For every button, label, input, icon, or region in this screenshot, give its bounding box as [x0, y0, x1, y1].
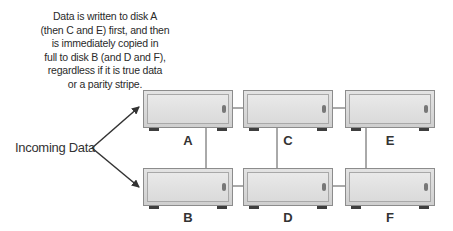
disk-c-label: C	[243, 133, 333, 148]
disk-f	[345, 168, 435, 206]
disk-face	[247, 94, 329, 124]
disk-face	[147, 94, 229, 124]
arrow-to-disk-a	[92, 107, 139, 148]
disk-led-icon	[424, 183, 428, 191]
disk-d	[243, 168, 333, 206]
disk-led-icon	[222, 183, 226, 191]
disk-led-icon	[322, 183, 326, 191]
disk-face	[147, 172, 229, 202]
disk-e-label: E	[345, 133, 435, 148]
disk-foot	[249, 206, 259, 209]
disk-foot	[419, 206, 429, 209]
disk-foot	[317, 206, 327, 209]
disk-c	[243, 90, 333, 128]
disk-foot	[217, 128, 227, 131]
disk-d-label: D	[243, 210, 333, 225]
disk-foot	[217, 206, 227, 209]
disk-b	[143, 168, 233, 206]
disk-b-label: B	[143, 210, 233, 225]
disk-a-label: A	[143, 133, 233, 148]
disk-foot	[149, 128, 159, 131]
arrow-to-disk-b	[92, 148, 139, 187]
disk-face	[247, 172, 329, 202]
disk-foot	[317, 128, 327, 131]
disk-foot	[351, 128, 361, 131]
disk-a	[143, 90, 233, 128]
disk-e	[345, 90, 435, 128]
disk-foot	[249, 128, 259, 131]
disk-foot	[351, 206, 361, 209]
disk-led-icon	[424, 105, 428, 113]
disk-foot	[419, 128, 429, 131]
disk-face	[349, 94, 431, 124]
disk-f-label: F	[345, 210, 435, 225]
disk-face	[349, 172, 431, 202]
disk-led-icon	[222, 105, 226, 113]
disk-led-icon	[322, 105, 326, 113]
disk-foot	[149, 206, 159, 209]
